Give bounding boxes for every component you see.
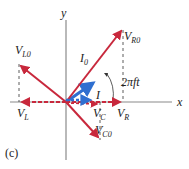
x-axis-label: x bbox=[176, 95, 183, 109]
vc-label: VC bbox=[93, 106, 106, 122]
y-axis-label: y bbox=[60, 6, 67, 20]
i0-label: I0 bbox=[79, 51, 88, 67]
vl0-phasor-arrow bbox=[21, 66, 66, 102]
vr-label: VR bbox=[117, 106, 129, 122]
vc0-label: VC0 bbox=[95, 123, 112, 139]
vc-projection-arrow bbox=[66, 103, 97, 104]
panel-label: (c) bbox=[5, 146, 18, 160]
vr0-phasor-arrow bbox=[66, 31, 121, 102]
angle-arc bbox=[107, 74, 113, 101]
phasor-diagram: y x VL0 I0 VR0 2πft I VL VC VR VC0 (c) bbox=[0, 0, 189, 169]
angle-label: 2πft bbox=[121, 75, 140, 89]
vl-label: VL bbox=[17, 106, 29, 122]
vr0-label: VR0 bbox=[124, 29, 140, 45]
vl0-label: VL0 bbox=[15, 43, 31, 59]
i-label: I bbox=[95, 88, 101, 102]
